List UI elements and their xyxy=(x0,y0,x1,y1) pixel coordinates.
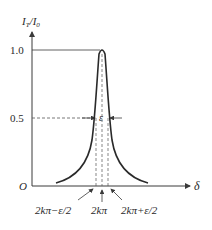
x-annotation-center: 2kπ xyxy=(91,204,107,216)
x-annotation-plus: 2kπ+ε/2 xyxy=(121,204,158,216)
x-axis-label: δ xyxy=(194,179,200,193)
transmission-peak-diagram: IT/I0 1.0 0.5 O δ ε 2kπ−ε/2 2kπ 2kπ+ε/2 xyxy=(0,0,212,230)
arrow-minus xyxy=(78,189,93,200)
y-axis-label: IT/I0 xyxy=(21,15,40,29)
y-tick-0-5: 0.5 xyxy=(10,112,24,124)
arrow-plus xyxy=(111,189,122,200)
x-annotation-minus: 2kπ−ε/2 xyxy=(35,204,72,216)
y-tick-1: 1.0 xyxy=(10,44,24,56)
origin-label: O xyxy=(19,180,27,192)
width-label: ε xyxy=(99,112,103,123)
